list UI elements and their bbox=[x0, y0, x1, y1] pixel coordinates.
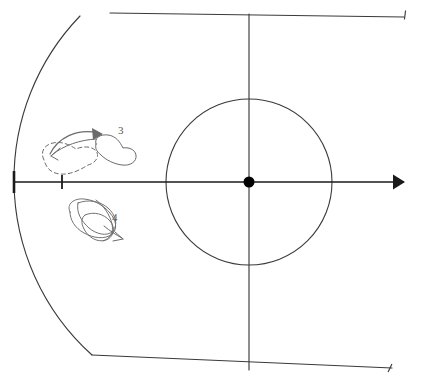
region-label-4: 4 bbox=[112, 211, 118, 223]
origin-point bbox=[244, 177, 255, 188]
diagram-svg: 3 4 bbox=[0, 0, 427, 386]
diagram-canvas: 3 4 bbox=[0, 0, 427, 386]
paper-background bbox=[0, 0, 427, 386]
region-label-3: 3 bbox=[118, 124, 124, 136]
